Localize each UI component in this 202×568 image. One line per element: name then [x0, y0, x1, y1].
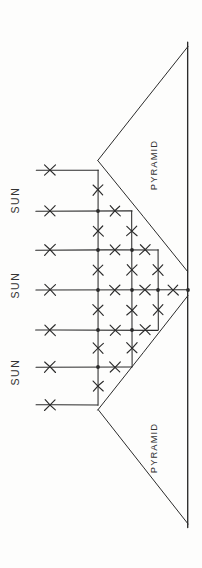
lattice-grid-layer: [98, 170, 158, 405]
sun-label-2: SUN: [9, 272, 21, 299]
upper-pyramid-lower-edge: [98, 160, 188, 271]
lattice-node-4: [96, 328, 100, 332]
lattice-node-6: [130, 248, 134, 252]
lower-pyramid-lower-edge: [98, 410, 188, 524]
pyramids-layer: [98, 46, 188, 524]
upper-pyramid-upper-edge: [98, 46, 188, 160]
sun-ray-6: [36, 361, 132, 372]
sun-ray-1: [36, 165, 98, 175]
lattice-nodes-layer: [96, 209, 190, 369]
lattice-node-8: [130, 328, 134, 332]
lattice-node-2: [96, 248, 100, 252]
sun-ray-7: [36, 400, 98, 411]
lattice-node-9: [156, 288, 160, 292]
lattice-node-7: [130, 288, 134, 292]
lattice-node-3: [96, 288, 100, 292]
pyramid-sun-diagram: SUNSUNSUNPYRAMIDPYRAMID: [0, 0, 202, 568]
lattice-node-1: [96, 209, 100, 213]
pyramid-label-1: PYRAMID: [148, 140, 159, 190]
lower-pyramid-upper-edge: [98, 296, 188, 411]
x-marks-layer: [93, 185, 178, 391]
lattice-node-5: [96, 365, 100, 369]
sun-label-3: SUN: [9, 359, 21, 386]
pyramid-label-2: PYRAMID: [148, 423, 159, 473]
upper-pyramid: [98, 46, 188, 271]
figure-canvas: SUNSUNSUNPYRAMIDPYRAMID: [0, 0, 202, 568]
lattice-node-10: [186, 288, 190, 292]
sun-label-1: SUN: [9, 187, 21, 214]
